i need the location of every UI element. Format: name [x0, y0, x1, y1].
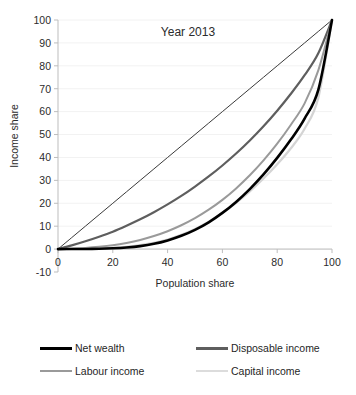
y-axis-tick-label: 10 — [39, 220, 51, 232]
y-axis-tick-label: 40 — [39, 151, 51, 163]
chart-figure: -100102030405060708090100020406080100Yea… — [0, 0, 356, 395]
legend-item-net-wealth: Net wealth — [0, 342, 178, 354]
y-axis-tick-label: 20 — [39, 197, 51, 209]
y-axis-tick-label: 90 — [39, 37, 51, 49]
chart-title: Year 2013 — [161, 25, 216, 39]
legend-label-capital-income: Capital income — [231, 365, 300, 377]
legend-label-labour-income: Labour income — [75, 365, 144, 377]
x-axis-tick-label: 20 — [107, 256, 119, 268]
x-axis-tick-label: 80 — [271, 256, 283, 268]
legend-swatch-disposable-income — [196, 347, 228, 350]
x-axis-tick-label: 100 — [323, 256, 341, 268]
x-axis-title: Population share — [156, 277, 235, 289]
legend-item-disposable-income: Disposable income — [178, 342, 356, 354]
y-axis-tick-label: -10 — [36, 266, 51, 278]
y-axis-tick-label: 100 — [33, 14, 51, 26]
y-axis-tick-label: 30 — [39, 174, 51, 186]
legend-swatch-labour-income — [40, 370, 72, 372]
legend-item-capital-income: Capital income — [178, 365, 356, 377]
y-axis-tick-label: 60 — [39, 105, 51, 117]
x-axis-tick-label: 40 — [162, 256, 174, 268]
y-axis-title: Income share — [8, 104, 20, 168]
x-axis-tick-label: 60 — [217, 256, 229, 268]
chart-legend: Net wealth Disposable income Labour inco… — [0, 332, 356, 395]
legend-label-disposable-income: Disposable income — [231, 342, 320, 354]
y-axis-tick-label: 70 — [39, 83, 51, 95]
legend-swatch-capital-income — [196, 370, 228, 372]
chart-plot-container: -100102030405060708090100020406080100Yea… — [0, 0, 356, 330]
y-axis-tick-label: 80 — [39, 60, 51, 72]
lorenz-curve-chart: -100102030405060708090100020406080100Yea… — [0, 0, 356, 330]
y-axis-tick-label: 0 — [45, 243, 51, 255]
legend-item-labour-income: Labour income — [0, 365, 178, 377]
legend-label-net-wealth: Net wealth — [75, 342, 125, 354]
y-axis-tick-label: 50 — [39, 128, 51, 140]
x-axis-tick-label: 0 — [55, 256, 61, 268]
legend-swatch-net-wealth — [40, 347, 72, 350]
